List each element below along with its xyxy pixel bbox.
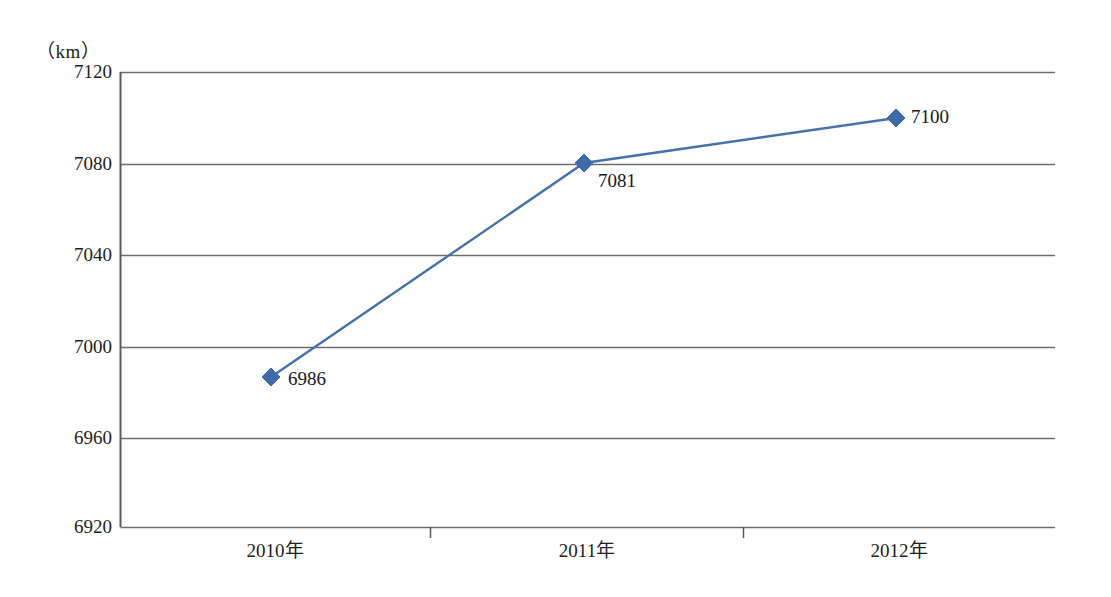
x-axis-tick-marks bbox=[431, 527, 744, 538]
plot-area bbox=[0, 0, 1111, 597]
data-point-label: 6986 bbox=[288, 368, 326, 390]
data-point-marker bbox=[575, 154, 593, 172]
data-point-marker bbox=[262, 368, 280, 386]
gridlines bbox=[121, 73, 1056, 528]
series-markers bbox=[262, 109, 905, 386]
line-chart: （km） 712070807040700069606920 2010年2011年… bbox=[0, 0, 1111, 597]
data-point-label: 7100 bbox=[911, 106, 949, 128]
data-point-marker bbox=[887, 109, 905, 127]
data-point-label: 7081 bbox=[598, 170, 636, 192]
